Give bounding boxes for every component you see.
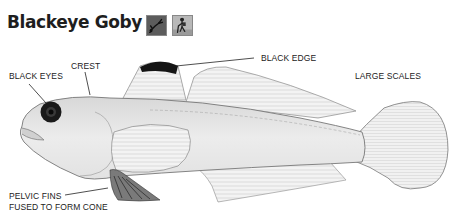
- fish-illustration: [0, 0, 460, 218]
- label-pelvic-fins-line2: FUSED TO FORM CONE: [9, 201, 108, 213]
- caudal-fin: [352, 102, 448, 189]
- pectoral-fin: [111, 124, 190, 172]
- label-black-eyes: BLACK EYES: [9, 70, 63, 82]
- label-large-scales: LARGE SCALES: [355, 70, 421, 82]
- label-black-edge: BLACK EDGE: [261, 52, 316, 64]
- label-crest: CREST: [71, 60, 100, 72]
